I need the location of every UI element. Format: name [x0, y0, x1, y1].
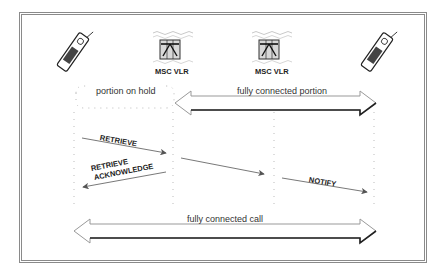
mobile-phone-icon [57, 26, 94, 72]
hold-region-label: portion on hold [96, 86, 156, 96]
msc-vlr-2-label: MSC VLR [255, 67, 289, 76]
msc-vlr-1-label: MSC VLR [155, 67, 189, 76]
switch-icon [252, 32, 292, 64]
switch-icon [153, 32, 193, 64]
connected-call-label: fully connected call [187, 214, 263, 224]
connected-portion-label: fully connected portion [237, 86, 327, 96]
mobile-phone-icon [361, 26, 398, 72]
forward-arrow [181, 158, 264, 174]
diagram-canvas [0, 0, 444, 276]
